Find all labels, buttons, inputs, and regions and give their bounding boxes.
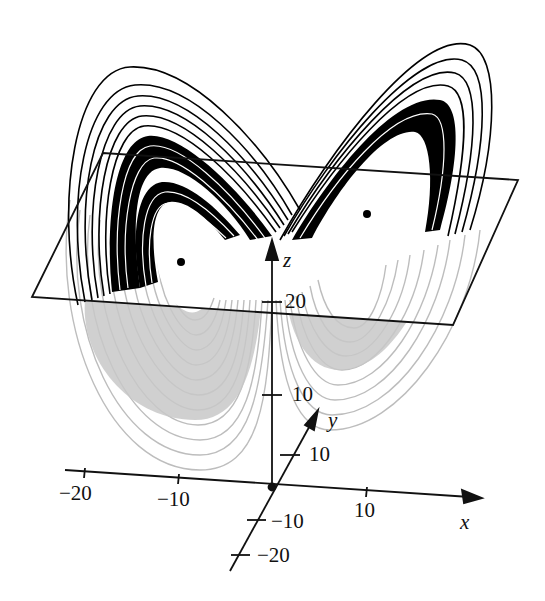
y-axis-label: y	[328, 410, 337, 431]
origin-point	[269, 484, 276, 491]
y-tick-10: 10	[309, 444, 330, 465]
x-tick-neg20: −20	[59, 483, 92, 504]
z-tick-20: 20	[285, 291, 306, 312]
right-fixed-point	[363, 210, 371, 218]
x-tick-10: 10	[354, 500, 375, 521]
z-tick-10: 10	[292, 384, 313, 405]
x-axis-arrow-icon	[462, 490, 482, 503]
x-axis	[65, 470, 470, 497]
x-tick-neg10: −10	[157, 489, 190, 510]
z-axis-arrow-icon	[266, 240, 278, 260]
left-fixed-point	[177, 258, 185, 266]
x-axis-label: x	[460, 512, 469, 533]
y-tick-neg10: −10	[271, 511, 304, 532]
y-tick-neg20: −20	[257, 545, 290, 566]
z-axis-label: z	[283, 250, 291, 271]
